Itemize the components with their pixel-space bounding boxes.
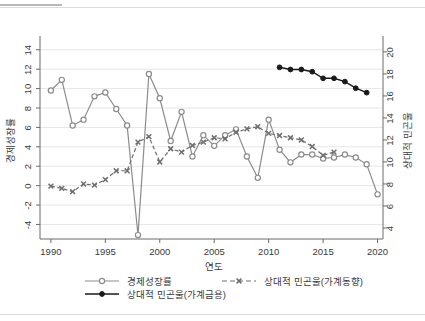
x-tick-label: 1995: [95, 246, 116, 257]
y-tick-label-right: 20: [384, 47, 395, 58]
y-tick-label-right: 14: [384, 113, 395, 124]
data-point-marker: [103, 177, 108, 182]
data-point-marker: [125, 123, 130, 128]
data-point-marker: [244, 154, 249, 159]
x-tick-label: 2015: [313, 246, 334, 257]
data-point-marker: [190, 154, 195, 159]
data-point-marker: [266, 131, 271, 136]
y-tick-label-right: 10: [384, 157, 395, 168]
y-tick-label-right: 18: [384, 69, 395, 80]
y-axis-title-left: 경제성장률: [5, 118, 16, 163]
x-axis: 1990199520002005201020152020: [40, 239, 388, 257]
gridlines: [40, 50, 383, 225]
x-tick-label: 1990: [40, 246, 61, 257]
legend-item[interactable]: 상대적 민곤울(가계동향): [222, 276, 363, 287]
data-point-marker: [299, 152, 304, 157]
x-tick-label: 2005: [204, 246, 225, 257]
data-point-marker: [342, 152, 347, 157]
y-tick-label-left: 12: [22, 64, 33, 75]
data-point-marker: [100, 292, 105, 297]
data-point-marker: [157, 96, 162, 101]
data-point-marker: [99, 278, 104, 283]
top-divider-accent: [0, 4, 62, 6]
x-tick-label: 2010: [258, 246, 279, 257]
y-tick-label-left: -2: [22, 201, 33, 209]
data-point-marker: [146, 134, 151, 139]
x-tick-label: 2000: [149, 246, 170, 257]
data-point-marker: [212, 143, 217, 148]
data-point-marker: [48, 88, 53, 93]
data-point-marker: [212, 135, 217, 140]
data-point-marker: [146, 71, 151, 76]
line-chart-svg: -4-202468101214 468101214161820 19901995…: [0, 0, 425, 321]
data-point-marker: [70, 123, 75, 128]
data-point-marker: [92, 94, 97, 99]
y-tick-label-right: 16: [384, 91, 395, 102]
legend-label: 상대적 민곤울(가계동향): [264, 276, 363, 287]
data-point-marker: [168, 138, 173, 143]
data-point-marker: [310, 152, 315, 157]
data-point-marker: [266, 117, 271, 122]
data-point-marker: [332, 76, 337, 81]
y-tick-label-left: 6: [22, 125, 33, 130]
y-tick-label-left: -4: [22, 221, 33, 229]
data-point-marker: [342, 79, 347, 84]
y-tick-label-left: 14: [22, 45, 33, 56]
y-tick-label-right: 6: [384, 204, 395, 209]
data-point-marker: [277, 65, 282, 70]
data-point-marker: [114, 106, 119, 111]
y-tick-label-right: 8: [384, 182, 395, 187]
x-axis-title: 연도: [205, 261, 223, 272]
legend-item[interactable]: 경제성장률: [85, 276, 172, 287]
y-axis-title-right: 상대적 민곤울: [402, 112, 413, 169]
top-divider: [0, 7, 425, 8]
series-layer: [48, 65, 380, 238]
data-point-marker: [179, 150, 184, 155]
series-line: [51, 74, 378, 235]
plot-frame: [40, 36, 383, 239]
data-point-marker: [310, 69, 315, 74]
data-point-marker: [299, 67, 304, 72]
data-point-marker: [157, 160, 162, 165]
y-axis-right: 468101214161820: [383, 47, 395, 231]
data-point-marker: [255, 175, 260, 180]
chart-legend: 경제성장률상대적 민곤울(가계동향)상대적 민곤울(가계금용): [85, 276, 363, 300]
series-1: [48, 71, 380, 237]
bottom-divider: [0, 314, 425, 315]
data-point-marker: [364, 162, 369, 167]
y-axis-left: -4-202468101214: [22, 45, 40, 229]
cropped-heading-text: · ·· · · · ···: [58, 0, 120, 3]
y-tick-label-right: 4: [384, 226, 395, 231]
data-point-marker: [353, 86, 358, 91]
data-point-marker: [331, 155, 336, 160]
y-tick-label-left: 10: [22, 84, 33, 95]
data-point-marker: [92, 183, 97, 188]
data-point-marker: [288, 67, 293, 72]
data-point-marker: [201, 133, 206, 138]
data-point-marker: [353, 155, 358, 160]
data-point-marker: [179, 109, 184, 114]
data-point-marker: [59, 77, 64, 82]
data-point-marker: [321, 76, 326, 81]
chart-figure: · ·· · · · ··· -4-202468101214 468101214…: [0, 0, 425, 321]
data-point-marker: [103, 90, 108, 95]
y-tick-label-left: 4: [22, 145, 33, 150]
y-tick-label-left: 8: [22, 106, 33, 111]
y-tick-label-left: 0: [22, 183, 33, 188]
data-point-marker: [375, 192, 380, 197]
legend-label: 상대적 민곤울(가계금용): [127, 289, 226, 300]
legend-item[interactable]: 상대적 민곤울(가계금용): [85, 289, 226, 300]
y-tick-label-right: 12: [384, 135, 395, 146]
data-point-marker: [277, 147, 282, 152]
data-point-marker: [364, 90, 369, 95]
y-tick-label-left: 2: [22, 164, 33, 169]
legend-label: 경제성장률: [127, 276, 172, 287]
data-point-marker: [81, 117, 86, 122]
data-point-marker: [135, 233, 140, 238]
data-point-marker: [288, 160, 293, 165]
x-tick-label: 2020: [367, 246, 388, 257]
